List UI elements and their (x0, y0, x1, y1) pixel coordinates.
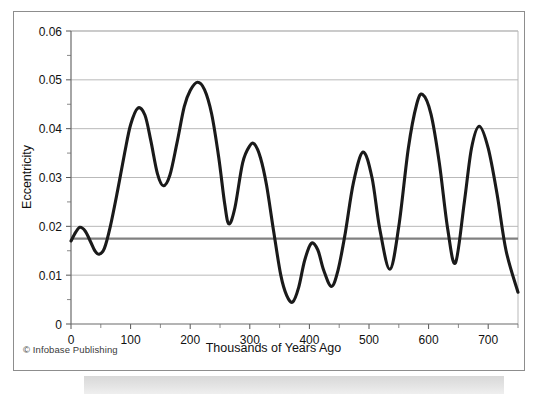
y-tick-label: 0.06 (39, 25, 63, 39)
y-tick-label: 0.02 (39, 220, 63, 234)
publisher-credit: © Infobase Publishing (23, 344, 118, 355)
y-axis-tick-labels: 00.010.020.030.040.050.06 (39, 25, 63, 332)
y-tick-label: 0.04 (39, 122, 63, 136)
figure-root: 00.010.020.030.040.050.06 01002003004005… (0, 0, 547, 394)
y-tick-label: 0.01 (39, 269, 63, 283)
y-tick-label: 0.05 (39, 73, 63, 87)
major-ticks-group (66, 31, 488, 329)
minor-ticks-group (67, 55, 518, 328)
page-shadow-bar (84, 376, 504, 394)
y-axis-title: Eccentricity (20, 117, 34, 237)
eccentricity-line-chart: 00.010.020.030.040.050.06 01002003004005… (13, 11, 525, 371)
eccentricity-data-line (71, 82, 518, 302)
y-tick-label: 0 (55, 318, 62, 332)
y-tick-label: 0.03 (39, 171, 63, 185)
